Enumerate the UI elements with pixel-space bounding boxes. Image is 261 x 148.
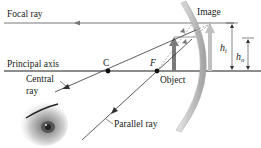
image-arrow-shaft [208, 32, 212, 71]
central-ray-arrowhead-icon [62, 84, 70, 89]
center-label: C [103, 58, 109, 68]
reflected-arrowhead-icon [180, 28, 185, 33]
image-arrow-head-icon [205, 23, 215, 33]
focal-point-label: F [149, 58, 156, 68]
central-ray-label-line1: Central [26, 74, 54, 84]
central-ray-leader [60, 81, 66, 86]
focal-point [155, 69, 160, 74]
object-height-arrow-down-icon [246, 66, 250, 70]
object-label: Object [160, 75, 186, 85]
focal-ray-arrowhead-icon [74, 21, 80, 26]
object-height-arrow-up-icon [246, 39, 250, 43]
parallel-ray-label: Parallel ray [114, 119, 158, 129]
parallel-ray-leader [106, 119, 113, 124]
image-height-arrow-up-icon [230, 24, 234, 28]
eye-icon [20, 102, 68, 146]
convex-mirror [176, 1, 206, 132]
principal-axis-label: Principal axis [7, 59, 59, 69]
central-ray-label-line2: ray [26, 86, 38, 96]
ray-diagram: Focal ray Principal axis C F Object Imag… [0, 0, 261, 148]
image-height-arrow-down-icon [230, 66, 234, 70]
object-height-label: ho [236, 51, 245, 63]
image-height-label: hi [220, 42, 227, 54]
reflected-arrowhead-2-icon [182, 39, 187, 44]
focal-ray-label: Focal ray [7, 9, 43, 19]
center-of-curvature-point [106, 69, 111, 74]
image-label: Image [197, 7, 221, 17]
